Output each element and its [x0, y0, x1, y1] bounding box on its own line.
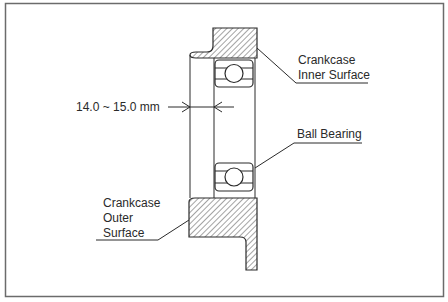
lower-ball [225, 168, 243, 186]
label-inner-surface-line1: Crankcase [298, 53, 356, 67]
label-ball-bearing: Ball Bearing [297, 127, 362, 141]
lower-crankcase-section [189, 198, 257, 270]
label-outer-surface-line3: Surface [103, 226, 145, 240]
leader-ball-bearing [255, 143, 362, 168]
label-outer-surface-line1: Crankcase [103, 196, 161, 210]
upper-bearing [215, 60, 253, 87]
label-outer-surface-line2: Outer [103, 211, 133, 225]
diagram-canvas: 14.0 ~ 15.0 mm Crankcase Inner Surface B… [0, 0, 448, 302]
upper-crankcase-section [190, 28, 257, 58]
bearing-diagram: 14.0 ~ 15.0 mm Crankcase Inner Surface B… [0, 0, 448, 302]
dimension-label: 14.0 ~ 15.0 mm [76, 100, 160, 114]
label-inner-surface-line2: Inner Surface [298, 68, 370, 82]
lower-bearing [215, 163, 253, 191]
upper-ball [225, 65, 243, 83]
dimension-indicator [168, 102, 234, 112]
